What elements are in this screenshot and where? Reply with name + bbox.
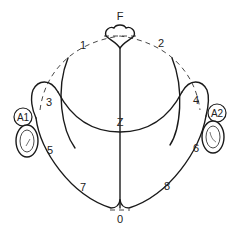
label-0: 0 bbox=[117, 213, 123, 225]
right-head-contour bbox=[120, 116, 206, 208]
label-8: 8 bbox=[164, 180, 170, 192]
nose-shape bbox=[106, 25, 135, 48]
eeg-diagram: F 1 2 3 4 Z 5 6 7 8 0 A1 A2 bbox=[0, 0, 240, 234]
label-1: 1 bbox=[80, 39, 86, 51]
label-f: F bbox=[117, 10, 124, 22]
label-a1: A1 bbox=[17, 112, 30, 123]
label-3: 3 bbox=[46, 96, 52, 108]
right-inner-curve bbox=[170, 58, 180, 145]
label-7: 7 bbox=[80, 181, 86, 193]
left-temporal-loop bbox=[32, 82, 58, 118]
label-z: Z bbox=[117, 116, 124, 128]
label-6: 6 bbox=[193, 142, 199, 154]
left-inner-curve bbox=[61, 58, 75, 148]
label-2: 2 bbox=[158, 37, 164, 49]
label-4: 4 bbox=[193, 94, 199, 106]
label-a2: A2 bbox=[211, 108, 224, 119]
label-5: 5 bbox=[47, 144, 53, 156]
